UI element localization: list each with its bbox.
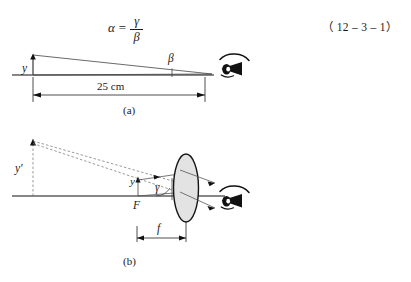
equation-fraction: γ β — [130, 15, 143, 44]
figure-b-caption: (b) — [123, 255, 136, 267]
figure-a-triangle — [33, 55, 212, 75]
equation-row: α = γ β （ 12 – 3 – 1） — [0, 6, 411, 42]
figure-b-object-arrow — [30, 139, 36, 197]
converging-lens-icon — [174, 154, 199, 222]
equation-denominator: β — [131, 31, 143, 44]
figure-a-drawing — [0, 44, 290, 124]
equation-number: （ 12 – 3 – 1） — [322, 18, 397, 34]
figure-b-focal-length-label: f — [157, 222, 160, 234]
equation-equals-sign: = — [119, 20, 126, 36]
figure-a: y β 25 cm — [0, 44, 290, 124]
figure-a-caption: (a) — [123, 104, 135, 116]
equation-lhs: α — [108, 20, 115, 36]
figure-a-distance-label: 25 cm — [97, 80, 124, 92]
equation-alpha-gamma-beta: α = γ β — [108, 14, 143, 43]
figure-a-object-height-label: y — [22, 62, 27, 74]
eye-icon — [220, 186, 249, 209]
figure-b-ray-lower-dashed — [33, 144, 190, 197]
figure-b-image-height-label: y — [130, 175, 135, 187]
figure-page: α = γ β （ 12 – 3 – 1） — [0, 0, 411, 282]
figure-b-ray-upper-dashed — [33, 141, 190, 186]
figure-b: y′ y γ F f — [0, 130, 300, 250]
figure-b-angle-label: γ — [155, 181, 160, 193]
figure-b-object-height-label: y′ — [15, 162, 23, 174]
eye-icon — [220, 54, 249, 77]
figure-b-focal-point-label: F — [133, 199, 140, 211]
equation-numerator: γ — [131, 15, 142, 28]
figure-b-focal-dimension — [137, 222, 186, 242]
figure-b-drawing — [0, 130, 300, 250]
figure-a-object-arrow — [30, 54, 36, 76]
figure-a-angle-label: β — [168, 52, 174, 64]
